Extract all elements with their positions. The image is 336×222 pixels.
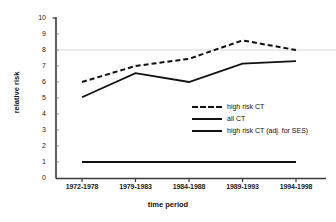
legend-label-high-risk-ct-adj-ses: high risk CT (adj. for SES): [227, 127, 308, 134]
legend-swatch-solid-thin-icon: [192, 114, 222, 124]
line-chart: 10 9 8 7 6 5 4 3 2 1 0 1972-1978 1979-19…: [0, 0, 336, 222]
y-tick-9: 9: [28, 30, 46, 38]
chart-legend: high risk CT all CT high risk CT (adj. f…: [192, 101, 334, 137]
y-tick-7: 7: [28, 62, 46, 70]
y-tick-8: 8: [28, 46, 46, 54]
y-axis-tick-labels: 10 9 8 7 6 5 4 3 2 1 0: [26, 0, 46, 222]
legend-item-all-ct: all CT: [192, 113, 334, 124]
y-tick-10: 10: [28, 14, 46, 22]
x-tick-1994-1998: 1994-1998: [268, 183, 324, 190]
legend-label-high-risk-ct: high risk CT: [227, 103, 264, 110]
y-tick-2: 2: [28, 142, 46, 150]
y-tick-3: 3: [28, 126, 46, 134]
legend-item-high-risk-ct-adj-ses: high risk CT (adj. for SES): [192, 125, 334, 136]
y-tick-4: 4: [28, 110, 46, 118]
legend-swatch-solid-icon: [192, 126, 222, 136]
x-axis-title: time period: [0, 200, 336, 209]
y-tick-6: 6: [28, 78, 46, 86]
x-tick-1989-1993: 1989-1993: [215, 183, 271, 190]
y-tick-0: 0: [28, 174, 46, 182]
legend-label-all-ct: all CT: [227, 115, 245, 122]
x-tick-1984-1988: 1984-1988: [161, 183, 217, 190]
y-axis-title: relative risk: [12, 53, 21, 133]
series-high-risk-ct-adj-ses: [82, 61, 296, 97]
x-tick-1979-1983: 1979-1983: [108, 183, 164, 190]
legend-swatch-dashed-icon: [192, 102, 222, 112]
y-tick-1: 1: [28, 158, 46, 166]
y-tick-5: 5: [28, 94, 46, 102]
x-tick-1972-1978: 1972-1978: [54, 183, 110, 190]
series-high-risk-ct: [82, 40, 296, 82]
legend-item-high-risk-ct: high risk CT: [192, 101, 334, 112]
